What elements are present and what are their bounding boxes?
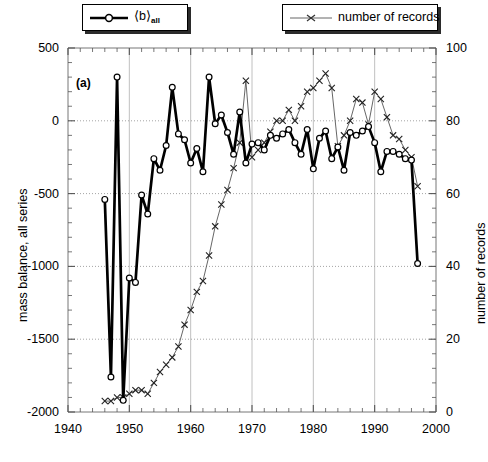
x-tick-label: 1940	[54, 422, 82, 436]
x-tick-label: 1980	[299, 422, 327, 436]
x-tick-label: 1970	[238, 422, 266, 436]
y-right-tick-label: 100	[446, 41, 467, 55]
y-left-tick-label: 500	[38, 41, 59, 55]
y-left-tick-label: -500	[34, 187, 59, 201]
y-left-tick-label: 0	[52, 114, 59, 128]
y-right-tick-label: 60	[446, 187, 460, 201]
y-right-tick-label: 40	[446, 259, 460, 273]
y-right-tick-label: 20	[446, 332, 460, 346]
y-right-tick-label: 80	[446, 114, 460, 128]
y-left-tick-label: -2000	[27, 405, 59, 419]
y-left-tick-label: -1500	[27, 332, 59, 346]
y-left-tick-label: -1000	[27, 259, 59, 273]
x-tick-label: 2000	[422, 422, 450, 436]
y-right-tick-label: 0	[446, 405, 453, 419]
x-tick-label: 1960	[177, 422, 205, 436]
x-tick-label: 1950	[115, 422, 143, 436]
series-mass-balance	[102, 74, 421, 403]
x-tick-label: 1990	[361, 422, 389, 436]
